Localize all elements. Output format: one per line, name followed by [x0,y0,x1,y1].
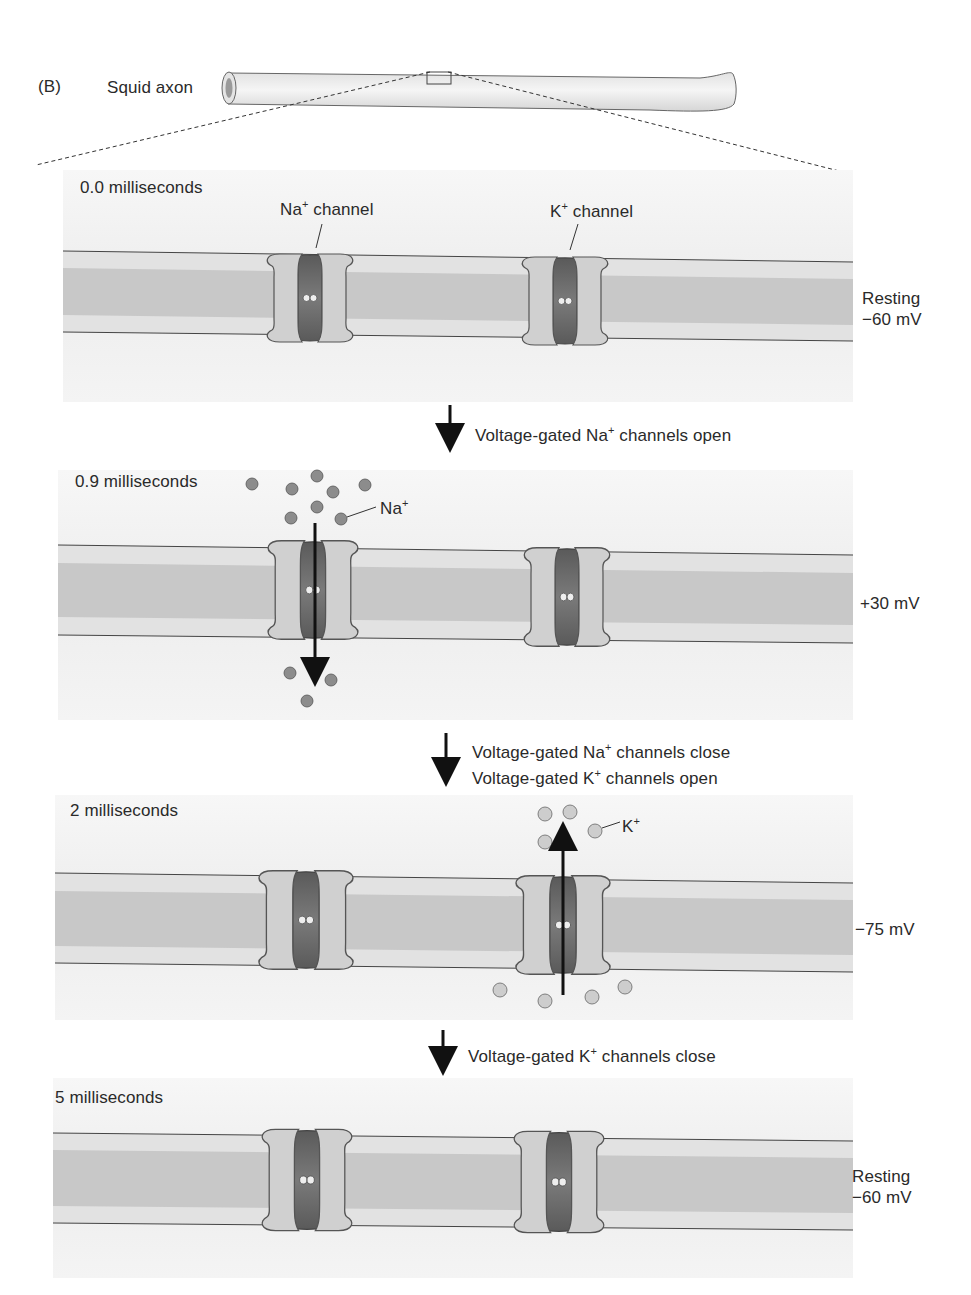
time-label: 5 milliseconds [55,1088,163,1108]
membrane-potential: +30 mV [860,594,920,614]
stage-panel-0ms [63,170,853,402]
transition-text: Voltage-gated Na+ channels open [475,424,731,446]
transition-text: Voltage-gated K+ channels close [468,1045,716,1067]
time-label: 0.9 milliseconds [75,472,198,492]
membrane-potential: Resting−60 mV [852,1166,912,1208]
transition-text: Voltage-gated Na+ channels close Voltage… [472,737,730,788]
membrane-potential: −75 mV [855,920,915,940]
time-label: 0.0 milliseconds [80,178,203,198]
stage-panel-5ms [53,1078,853,1278]
ion-label-na: Na+ [380,497,408,519]
stage-panel-2ms [55,795,853,1020]
stage-panel-0.9ms [58,470,853,720]
na-channel-label: Na+ channel [280,198,374,220]
time-label: 2 milliseconds [70,801,178,821]
k-channel-label: K+ channel [550,200,633,222]
membrane-potential: Resting−60 mV [862,288,922,330]
ion-label-k: K+ [622,815,640,837]
squid-axon-illustration [36,72,855,175]
